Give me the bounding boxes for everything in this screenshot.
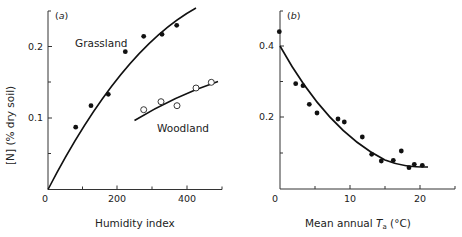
data-point xyxy=(315,111,320,116)
x-axis-title-a: Humidity index xyxy=(95,217,175,229)
data-point xyxy=(123,49,128,54)
y-ticks-a xyxy=(48,47,52,154)
data-point xyxy=(293,81,298,86)
x-tick-label-20: 20 xyxy=(414,193,426,204)
data-point xyxy=(106,92,111,97)
data-point xyxy=(193,85,199,91)
panel-label-b: (b) xyxy=(287,10,300,21)
data-point xyxy=(336,117,341,122)
data-point xyxy=(369,152,374,157)
data-point xyxy=(307,102,312,107)
y-tick-label-0.2: 0.2 xyxy=(259,111,274,122)
x-tick-label-0: 0 xyxy=(42,193,48,204)
data-point xyxy=(141,34,146,39)
x-axis-title-b: Mean annual Ta (°C) xyxy=(305,217,411,231)
temperature-points xyxy=(277,29,425,170)
figure: 0 200 400 0.1 0.2 Humidity index [N] (% … xyxy=(0,0,462,237)
data-point xyxy=(420,163,425,168)
annotation-woodland: Woodland xyxy=(157,122,209,134)
data-point xyxy=(141,107,147,113)
annotation-grassland: Grassland xyxy=(75,37,128,49)
data-point xyxy=(391,158,396,163)
data-point xyxy=(174,23,179,28)
data-point xyxy=(399,149,404,154)
x-tick-label-0: 0 xyxy=(272,193,278,204)
data-point xyxy=(174,103,180,109)
data-point xyxy=(277,29,282,34)
y-tick-label-0.4: 0.4 xyxy=(259,40,274,51)
data-point xyxy=(208,79,214,85)
data-point xyxy=(412,162,417,167)
x-ticks-a xyxy=(83,186,223,190)
woodland-points xyxy=(141,79,215,112)
data-point xyxy=(301,83,306,88)
x-tick-label-400: 400 xyxy=(178,193,196,204)
y-axis-title-a: [N] (% dry soil) xyxy=(4,86,16,165)
woodland-fit-curve xyxy=(135,82,219,121)
y-tick-label-0.2: 0.2 xyxy=(28,41,43,52)
data-point xyxy=(89,103,94,108)
x-tick-label-200: 200 xyxy=(108,193,126,204)
temperature-fit-curve xyxy=(280,46,428,167)
panel-label-a: (a) xyxy=(55,10,68,21)
data-point xyxy=(379,159,384,164)
data-point xyxy=(342,120,347,125)
panel-a: 0 200 400 0.1 0.2 Humidity index [N] (% … xyxy=(4,8,222,229)
data-point xyxy=(158,99,164,105)
data-point xyxy=(407,165,412,170)
data-point xyxy=(360,135,365,140)
x-ticks-b xyxy=(315,185,455,189)
panel-b: 0 10 20 0.2 0.4 Mean annual Ta (°C) (b) xyxy=(259,10,455,231)
data-point xyxy=(160,32,165,37)
y-ticks-b xyxy=(280,46,284,153)
y-tick-label-0.1: 0.1 xyxy=(28,112,43,123)
x-tick-label-10: 10 xyxy=(344,193,356,204)
data-point xyxy=(73,125,78,130)
